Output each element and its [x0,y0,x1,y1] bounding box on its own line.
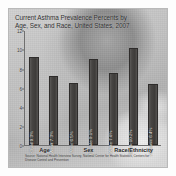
group-label-row: AgeSexRace/Ethnicity [24,146,161,155]
chart-title: Current Asthma Prevalence Percents by Ag… [15,14,161,29]
group-label: Age [39,147,50,153]
plot-area-wrapper: 121086420 Child 9.3%Adult 7.3%Male 6.5%F… [15,31,161,146]
bar-series: Child 9.3%Adult 7.3%Male 6.5%Female 9.1%… [25,31,161,145]
figure-frame: Current Asthma Prevalence Percents by Ag… [0,0,176,176]
bar: Male 6.5% [69,83,79,145]
source-note: Source: National Health Interview Survey… [25,155,151,163]
bar: Black 10.2% [129,48,139,145]
plot-area: Child 9.3%Adult 7.3%Male 6.5%Female 9.1%… [24,31,161,146]
chart-plate: Current Asthma Prevalence Percents by Ag… [8,8,168,168]
bar: Female 9.1% [89,59,99,145]
y-axis: 121086420 [15,31,24,146]
bar: Child 9.3% [29,57,39,145]
group-label: Sex [83,147,93,153]
bar-chart: Current Asthma Prevalence Percents by Ag… [9,9,167,167]
bar: Adult 7.3% [49,76,59,145]
group-label: Race/Ethnicity [114,147,153,153]
bar: White 7.6% [109,73,119,145]
bar: Hispanic 6.4% [148,84,158,145]
